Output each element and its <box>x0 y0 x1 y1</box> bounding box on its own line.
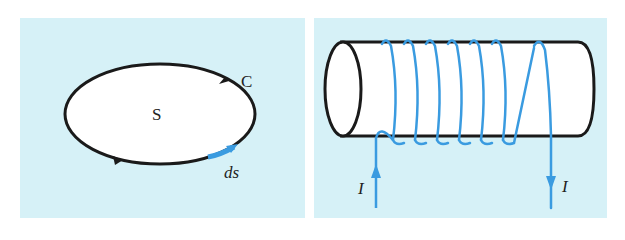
curve-label: C <box>241 73 252 90</box>
current-out-arrow <box>546 176 556 190</box>
closed-curve-diagram <box>20 18 305 218</box>
solenoid-panel: I I <box>314 18 607 218</box>
current-out-label: I <box>562 178 568 195</box>
current-in-label: I <box>358 180 364 197</box>
line-element-label: ds <box>224 164 239 181</box>
current-in-arrow <box>371 164 381 178</box>
surface-label: S <box>152 106 161 123</box>
cylinder-left-face <box>325 42 361 136</box>
closed-curve-panel: S C ds <box>20 18 305 218</box>
cylinder-body <box>340 42 594 136</box>
